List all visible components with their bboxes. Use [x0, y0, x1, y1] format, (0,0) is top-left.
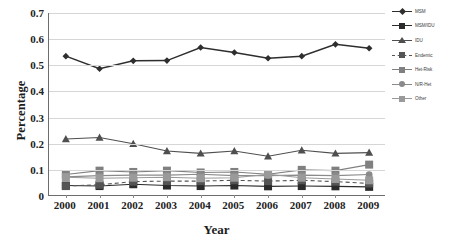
data-point-marker: [164, 57, 171, 64]
plot-area: [48, 13, 385, 196]
legend-label: Het-Risk: [415, 67, 432, 72]
legend-swatch: [392, 34, 412, 46]
data-point-marker: [63, 53, 70, 60]
legend-item-idu[interactable]: IDU: [392, 33, 450, 48]
data-point-marker: [129, 174, 137, 182]
legend-item-other[interactable]: Other: [392, 92, 450, 107]
y-tick-label: 0.5: [4, 60, 44, 70]
series-msm-idu: [62, 180, 373, 191]
x-tick-mark: [167, 195, 168, 198]
data-point-marker: [331, 175, 339, 183]
series-msm: [63, 41, 373, 72]
legend-label: N/R-Het: [415, 82, 431, 87]
y-tick-label: 0.2: [4, 139, 44, 149]
legend-label: MSM/IDU: [415, 23, 435, 28]
x-tick-label: 2009: [346, 199, 390, 211]
x-axis-tick-labels: 2000200120022003200420052006200720082009: [48, 199, 385, 219]
legend-marker: [399, 67, 405, 73]
gridline: [49, 65, 385, 66]
x-tick-mark: [335, 195, 336, 198]
data-point-marker: [130, 58, 137, 65]
data-point-marker: [231, 49, 238, 56]
data-point-marker: [332, 41, 339, 48]
legend-swatch: [392, 64, 412, 76]
legend-marker: [399, 81, 405, 87]
legend-marker: [398, 37, 406, 43]
y-tick-label: 0: [4, 191, 44, 201]
x-tick-mark: [100, 195, 101, 198]
x-tick-mark: [66, 195, 67, 198]
data-point-marker: [163, 173, 171, 181]
legend-marker: [398, 8, 405, 15]
data-point-marker: [298, 146, 306, 153]
legend-swatch: [392, 5, 412, 17]
series-idu: [62, 133, 373, 159]
chart-legend: MSMMSM/IDUIDUEndemicHet-RiskN/R-HetOther: [392, 4, 450, 106]
data-point-marker: [197, 174, 205, 182]
gridline: [49, 144, 385, 145]
data-point-marker: [298, 174, 306, 182]
data-point-marker: [197, 44, 204, 51]
series-line: [66, 174, 369, 177]
data-point-marker: [62, 182, 70, 190]
data-point-marker: [230, 174, 238, 182]
y-tick-label: 0.7: [4, 8, 44, 18]
legend-swatch: [392, 20, 412, 32]
gridline: [49, 170, 385, 171]
legend-marker: [399, 52, 405, 58]
legend-marker: [399, 96, 405, 102]
gridline: [49, 91, 385, 92]
legend-label: IDU: [415, 38, 423, 43]
gridline: [49, 118, 385, 119]
data-point-marker: [62, 173, 70, 181]
x-tick-mark: [133, 195, 134, 198]
y-tick-label: 0.1: [4, 165, 44, 175]
y-axis-tick-labels: 00.10.20.30.40.50.60.7: [0, 0, 44, 252]
x-axis-title: Year: [48, 222, 385, 238]
series-layer: [49, 13, 386, 196]
legend-marker: [399, 23, 405, 29]
gridline: [49, 13, 385, 14]
legend-item-msm-idu[interactable]: MSM/IDU: [392, 19, 450, 34]
legend-swatch: [392, 93, 412, 105]
data-point-marker: [96, 174, 104, 182]
y-tick-label: 0.6: [4, 34, 44, 44]
chart-container: Percentage 00.10.20.30.40.50.60.7 200020…: [0, 0, 450, 252]
data-point-marker: [298, 53, 305, 60]
legend-item-msm[interactable]: MSM: [392, 4, 450, 19]
data-point-marker: [96, 65, 103, 72]
gridline: [49, 39, 385, 40]
legend-label: Other: [415, 96, 426, 101]
series-line: [66, 184, 369, 187]
y-tick-label: 0.3: [4, 113, 44, 123]
data-point-marker: [366, 45, 373, 52]
data-point-marker: [365, 161, 373, 169]
data-point-marker: [365, 176, 373, 184]
legend-swatch: [392, 49, 412, 61]
legend-item-n-r-het[interactable]: N/R-Het: [392, 77, 450, 92]
legend-label: MSM: [415, 9, 426, 14]
x-tick-mark: [369, 195, 370, 198]
legend-swatch: [392, 78, 412, 90]
y-tick-label: 0.4: [4, 86, 44, 96]
legend-item-het-risk[interactable]: Het-Risk: [392, 62, 450, 77]
data-point-marker: [265, 55, 272, 62]
data-point-marker: [230, 147, 238, 154]
data-point-marker: [264, 170, 272, 178]
x-tick-mark: [302, 195, 303, 198]
series-line: [66, 137, 369, 156]
x-tick-mark: [201, 195, 202, 198]
x-tick-mark: [234, 195, 235, 198]
legend-item-endemic[interactable]: Endemic: [392, 48, 450, 63]
legend-label: Endemic: [415, 53, 433, 58]
x-tick-mark: [268, 195, 269, 198]
